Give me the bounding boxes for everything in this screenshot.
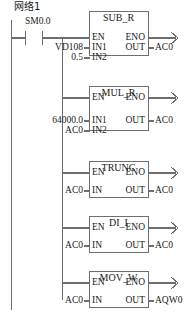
- block-title-sub-r: SUB_R: [89, 13, 148, 23]
- pin-out-mov-w: OUT: [105, 296, 145, 306]
- operand-out-di-i: AC0: [155, 241, 173, 251]
- operand-in2-sub-r: 0.5: [38, 53, 83, 63]
- pin-in2-mul-r: IN2: [92, 126, 107, 136]
- pin-en-mov-w: EN: [92, 278, 105, 288]
- pin-eno-mov-w: ENO: [105, 278, 145, 288]
- operand-out-mul-r: AC0: [155, 116, 173, 126]
- operand-in-trunc: AC0: [38, 186, 83, 196]
- operand-out-sub-r: AC0: [155, 43, 173, 53]
- pin-out-mul-r: OUT: [105, 116, 145, 126]
- network-title: 网络1: [14, 2, 40, 12]
- pin-in2-sub-r: IN2: [92, 53, 107, 63]
- pin-out-di-i: OUT: [105, 241, 145, 251]
- pin-out-trunc: OUT: [105, 186, 145, 196]
- pin-en-mul-r: EN: [92, 93, 105, 103]
- operand-out-trunc: AC0: [155, 186, 173, 196]
- operand-in-di-i: AC0: [38, 241, 83, 251]
- operand-in-mov-w: AC0: [38, 296, 83, 306]
- operand-in2-mul-r: AC0: [28, 126, 83, 136]
- pin-in-mov-w: IN: [92, 296, 102, 306]
- pin-eno-mul-r: ENO: [105, 93, 145, 103]
- pin-out-sub-r: OUT: [105, 43, 145, 53]
- pin-in-trunc: IN: [92, 186, 102, 196]
- operand-out-mov-w: AQW0: [155, 296, 182, 306]
- pin-in-di-i: IN: [92, 241, 102, 251]
- pin-eno-di-i: ENO: [105, 223, 145, 233]
- contact-label-sm00: SM0.0: [25, 17, 51, 27]
- pin-eno-trunc: ENO: [105, 168, 145, 178]
- pin-en-trunc: EN: [92, 168, 105, 178]
- pin-en-di-i: EN: [92, 223, 105, 233]
